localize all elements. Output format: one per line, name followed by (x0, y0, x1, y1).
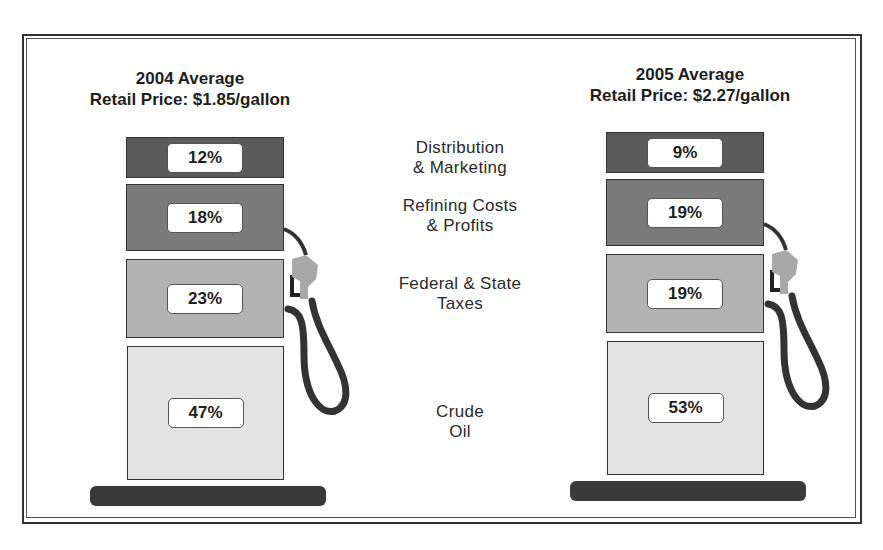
pump-base-2004 (90, 486, 326, 506)
segment-refining-2004: 18% (126, 184, 284, 251)
segment-distribution-2005: 9% (606, 132, 764, 173)
value-label: 47% (168, 398, 244, 428)
category-line: Distribution (360, 138, 560, 158)
category-line: Taxes (360, 294, 560, 314)
pump-2005-title: 2005 Average Retail Price: $2.27/gallon (555, 64, 825, 106)
value-label: 18% (167, 203, 243, 233)
value-label: 9% (647, 138, 723, 168)
pump-base-2005 (570, 481, 806, 501)
segment-crude-2004: 47% (127, 346, 284, 480)
category-line: Crude (360, 402, 560, 422)
category-line: Oil (360, 422, 560, 442)
category-label-taxes: Federal & State Taxes (360, 274, 560, 314)
pump-2004-title-year: 2004 Average (55, 68, 325, 89)
category-line: & Profits (360, 216, 560, 236)
pump-2005-title-year: 2005 Average (555, 64, 825, 85)
segment-taxes-2004: 23% (126, 259, 284, 338)
nozzle-hose-icon (280, 225, 360, 425)
value-label: 53% (648, 393, 724, 423)
segment-distribution-2004: 12% (126, 137, 284, 178)
segment-crude-2005: 53% (607, 341, 764, 475)
pump-2004-title: 2004 Average Retail Price: $1.85/gallon (55, 68, 325, 110)
category-line: & Marketing (360, 158, 560, 178)
value-label: 23% (167, 284, 243, 314)
value-label: 19% (647, 198, 723, 228)
pump-2004-title-price: Retail Price: $1.85/gallon (55, 89, 325, 110)
value-label: 12% (167, 143, 243, 173)
pump-2005-title-price: Retail Price: $2.27/gallon (555, 85, 825, 106)
category-line: Federal & State (360, 274, 560, 294)
segment-taxes-2005: 19% (606, 254, 764, 333)
category-label-distribution: Distribution & Marketing (360, 138, 560, 178)
category-line: Refining Costs (360, 196, 560, 216)
value-label: 19% (647, 279, 723, 309)
category-label-refining: Refining Costs & Profits (360, 196, 560, 236)
category-label-crude: Crude Oil (360, 402, 560, 442)
nozzle-hose-icon (760, 220, 840, 420)
segment-refining-2005: 19% (606, 179, 764, 246)
